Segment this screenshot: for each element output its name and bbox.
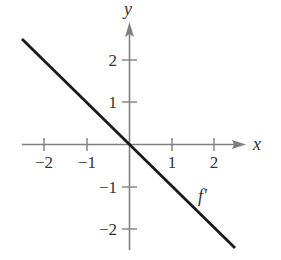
y-tick-label: −2	[99, 220, 117, 239]
chart: −2 −1 1 2 2 1 −1 −2 x y f′	[0, 0, 281, 260]
x-axis-arrow-icon	[232, 140, 246, 149]
series-line-f-prime	[22, 39, 235, 248]
series-annotation: f′	[198, 186, 208, 206]
x-tick-label: 1	[168, 153, 177, 172]
x-tick-label: −2	[35, 153, 53, 172]
y-tick-label: 2	[109, 51, 118, 70]
x-axis-label: x	[252, 134, 261, 154]
y-tick-label: −1	[99, 178, 117, 197]
x-tick-label: 2	[210, 153, 219, 172]
y-axis-label: y	[122, 0, 132, 19]
axes	[22, 30, 240, 250]
x-tick-label: −1	[78, 153, 96, 172]
y-tick-label: 1	[109, 93, 118, 112]
